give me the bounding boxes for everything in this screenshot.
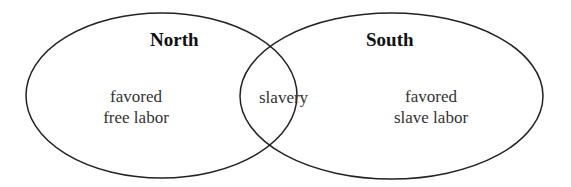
north-set-line1: favored: [81, 86, 191, 107]
north-set-description: favored free labor: [81, 86, 191, 128]
intersection-label: slavery: [259, 87, 308, 108]
south-set-line2: slave labor: [371, 107, 491, 128]
north-set-line2: free labor: [81, 107, 191, 128]
south-set-line1: favored: [371, 86, 491, 107]
north-set-title: North: [150, 29, 199, 50]
south-set-title: South: [366, 29, 414, 50]
south-set-description: favored slave labor: [371, 86, 491, 128]
